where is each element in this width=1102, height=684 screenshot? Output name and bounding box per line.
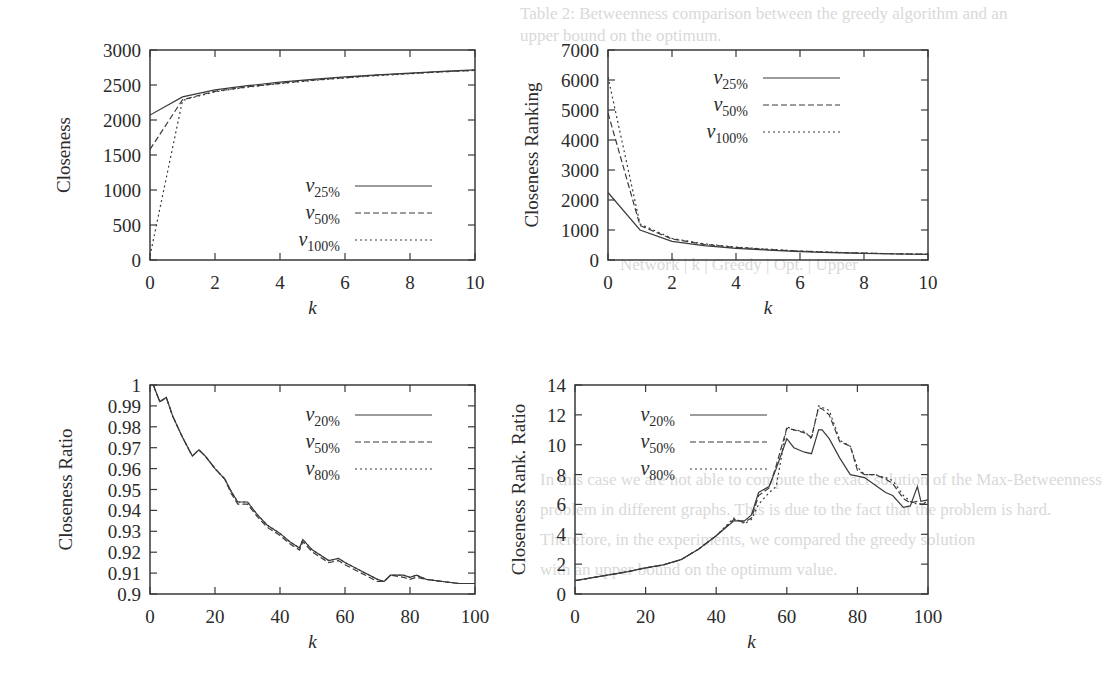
chart-closeness-ratio: 0204060801000.90.910.920.930.940.950.960…: [55, 375, 489, 652]
y-tick-label: 0: [557, 584, 567, 605]
legend-label: v50%: [640, 430, 675, 456]
y-tick-label: 1000: [103, 180, 141, 201]
y-tick-label: 2000: [103, 110, 141, 131]
y-tick-label: 0.99: [108, 396, 141, 417]
y-tick-label: 0: [590, 250, 600, 271]
legend-label: v50%: [713, 93, 748, 119]
y-tick-label: 1: [132, 375, 142, 396]
y-tick-label: 12: [547, 405, 566, 426]
plot-frame: [608, 50, 928, 260]
x-tick-label: 4: [275, 272, 285, 293]
y-tick-label: 0.9: [117, 584, 141, 605]
y-axis-title: Closeness Ranking: [521, 82, 542, 228]
legend-label: v80%: [640, 457, 675, 483]
y-tick-label: 6000: [561, 70, 599, 91]
x-tick-label: 40: [271, 606, 290, 627]
y-tick-label: 0.97: [108, 438, 141, 459]
x-tick-label: 0: [570, 606, 580, 627]
series-line-50pct: [150, 70, 475, 149]
x-tick-label: 8: [859, 272, 869, 293]
legend-label: v20%: [305, 403, 340, 429]
series-line-25pct: [608, 193, 928, 255]
y-tick-label: 3000: [103, 40, 141, 61]
x-tick-label: 80: [401, 606, 420, 627]
legend-label: v25%: [305, 174, 340, 200]
legend-label: v80%: [305, 457, 340, 483]
y-tick-label: 0.96: [108, 459, 141, 480]
series-line-50pct: [575, 407, 928, 580]
x-tick-label: 0: [145, 272, 155, 293]
legend-label: v25%: [713, 66, 748, 92]
y-tick-label: 0.91: [108, 563, 141, 584]
x-axis-title: k: [308, 631, 317, 652]
y-tick-label: 0.92: [108, 542, 141, 563]
y-tick-label: 0: [132, 250, 142, 271]
y-tick-label: 10: [547, 435, 566, 456]
y-tick-label: 0.94: [108, 500, 142, 521]
x-tick-label: 40: [707, 606, 726, 627]
x-tick-label: 100: [914, 606, 943, 627]
x-tick-label: 6: [340, 272, 350, 293]
chart-closeness-rank-ratio: 02040608010002468101214kCloseness Rank. …: [508, 375, 942, 652]
y-axis-title: Closeness Rank. Ratio: [508, 404, 529, 576]
y-tick-label: 2000: [561, 190, 599, 211]
y-tick-label: 7000: [561, 40, 599, 61]
y-tick-label: 14: [547, 375, 567, 396]
x-tick-label: 2: [667, 272, 677, 293]
x-axis-title: k: [308, 297, 317, 318]
x-tick-label: 8: [405, 272, 415, 293]
chart-closeness: 0246810050010001500200025003000kClosenes…: [53, 40, 485, 318]
x-tick-label: 60: [336, 606, 355, 627]
y-tick-label: 2: [557, 554, 567, 575]
y-tick-label: 4000: [561, 130, 599, 151]
y-tick-label: 3000: [561, 160, 599, 181]
y-axis-title: Closeness: [53, 117, 74, 193]
y-tick-label: 500: [113, 215, 142, 236]
series-line-80pct: [575, 406, 928, 581]
y-tick-label: 2500: [103, 75, 141, 96]
x-tick-label: 4: [731, 272, 741, 293]
y-tick-label: 0.93: [108, 521, 141, 542]
legend-label: v100%: [298, 228, 340, 254]
x-tick-label: 80: [848, 606, 867, 627]
x-axis-title: k: [764, 297, 773, 318]
chart-closeness-ranking: 024681001000200030004000500060007000kClo…: [521, 40, 938, 318]
y-tick-label: 6: [557, 494, 567, 515]
x-tick-label: 6: [795, 272, 805, 293]
plot-frame: [575, 385, 928, 594]
x-tick-label: 10: [466, 272, 485, 293]
series-line-100pct: [150, 70, 475, 255]
x-tick-label: 0: [145, 606, 155, 627]
y-tick-label: 4: [557, 524, 567, 545]
x-tick-label: 20: [636, 606, 655, 627]
series-line-20pct: [575, 430, 928, 581]
legend-label: v50%: [305, 430, 340, 456]
y-tick-label: 8: [557, 465, 567, 486]
x-tick-label: 20: [206, 606, 225, 627]
plot-frame: [150, 50, 475, 260]
x-tick-label: 0: [603, 272, 613, 293]
y-tick-label: 1500: [103, 145, 141, 166]
legend-label: v50%: [305, 201, 340, 227]
legend-label: v100%: [706, 120, 748, 146]
series-line-100pct: [608, 77, 928, 254]
x-tick-label: 2: [210, 272, 220, 293]
y-tick-label: 0.95: [108, 480, 141, 501]
y-tick-label: 1000: [561, 220, 599, 241]
series-line-25pct: [150, 70, 475, 115]
series-line-50pct: [608, 113, 928, 254]
x-tick-label: 60: [777, 606, 796, 627]
x-tick-label: 10: [919, 272, 938, 293]
legend-label: v20%: [640, 403, 675, 429]
x-tick-label: 100: [461, 606, 490, 627]
y-tick-label: 0.98: [108, 417, 141, 438]
x-axis-title: k: [747, 631, 756, 652]
y-axis-title: Closeness Ratio: [55, 429, 76, 551]
y-tick-label: 5000: [561, 100, 599, 121]
